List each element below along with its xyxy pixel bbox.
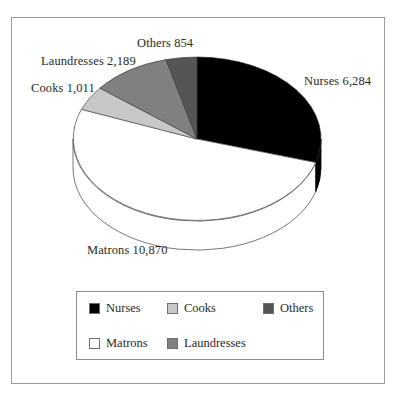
legend-swatch-others bbox=[263, 303, 274, 314]
legend-label-laundresses: Laundresses bbox=[184, 336, 246, 351]
legend: Nurses Cooks Others Matrons Laundresses bbox=[76, 291, 324, 360]
legend-swatch-matrons bbox=[89, 338, 100, 349]
label-others: Others 854 bbox=[137, 36, 193, 51]
legend-swatch-laundresses bbox=[167, 338, 178, 349]
legend-swatch-cooks bbox=[167, 303, 178, 314]
legend-label-matrons: Matrons bbox=[106, 336, 148, 351]
legend-label-others: Others bbox=[280, 301, 313, 316]
legend-item-cooks: Cooks bbox=[167, 301, 216, 316]
label-nurses: Nurses 6,284 bbox=[304, 74, 371, 89]
label-cooks: Cooks 1,011 bbox=[31, 81, 95, 96]
label-laundresses: Laundresses 2,189 bbox=[41, 54, 136, 69]
legend-item-laundresses: Laundresses bbox=[167, 336, 246, 351]
legend-swatch-nurses bbox=[89, 303, 100, 314]
legend-label-nurses: Nurses bbox=[106, 301, 141, 316]
legend-item-nurses: Nurses bbox=[89, 301, 141, 316]
label-matrons: Matrons 10,870 bbox=[87, 243, 168, 258]
legend-label-cooks: Cooks bbox=[184, 301, 216, 316]
legend-item-others: Others bbox=[263, 301, 313, 316]
legend-item-matrons: Matrons bbox=[89, 336, 148, 351]
